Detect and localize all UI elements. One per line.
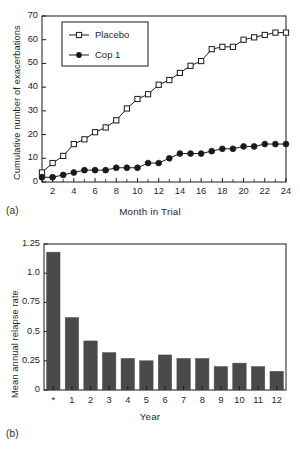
panel-a-datapoint — [145, 160, 151, 166]
panel-a-datapoint — [283, 141, 289, 147]
panel-a-datapoint — [61, 153, 66, 158]
panel-b-bar-chart: (b) Mean annual relapse rate Year 00.250… — [0, 230, 300, 459]
panel-a-xtick-12: 12 — [149, 186, 169, 196]
panel-a-xtick-20: 20 — [234, 186, 254, 196]
panel-a-datapoint — [135, 96, 140, 101]
panel-a-datapoint — [220, 44, 225, 49]
panel-b-bar — [177, 358, 190, 390]
panel-a-xtick-22: 22 — [255, 186, 275, 196]
panel-a-datapoint — [114, 118, 119, 123]
panel-b-ytick-0.75: 0.75 — [4, 296, 40, 306]
panel-b-bar — [233, 363, 246, 390]
panel-a-ytick-20: 20 — [4, 129, 38, 139]
panel-a-datapoint — [82, 137, 87, 142]
panel-a-datapoint — [92, 130, 97, 135]
panel-a-datapoint — [209, 148, 215, 154]
panel-a-xtick-8: 8 — [106, 186, 126, 196]
panel-b-ytick-0.25: 0.25 — [4, 355, 40, 365]
panel-a-datapoint — [166, 155, 172, 161]
panel-b-ytick-0.5: 0.5 — [4, 326, 40, 336]
panel-a-datapoint — [39, 174, 45, 180]
panel-a-legend-label: Cop 1 — [95, 49, 120, 60]
panel-a-xtick-24: 24 — [276, 186, 296, 196]
panel-a-legend: PlaceboCop 1 — [62, 22, 148, 66]
panel-b-bar — [84, 341, 97, 390]
figure: (a) Cumulative number of exacerbations M… — [0, 0, 300, 459]
panel-a-datapoint — [103, 125, 108, 130]
panel-b-ytick-1.0: 1.0 — [4, 267, 40, 277]
panel-a-datapoint — [71, 141, 76, 146]
panel-a-xtick-4: 4 — [64, 186, 84, 196]
panel-a-datapoint — [60, 172, 66, 178]
panel-a-datapoint — [199, 58, 204, 63]
panel-b-bar — [196, 358, 209, 390]
panel-a-ytick-60: 60 — [4, 34, 38, 44]
panel-a-datapoint — [124, 106, 129, 111]
panel-a-ytick-30: 30 — [4, 105, 38, 115]
panel-a-datapoint — [251, 144, 257, 150]
panel-a-datapoint — [92, 167, 98, 173]
panel-a-datapoint — [167, 77, 172, 82]
panel-b-bar — [65, 318, 78, 390]
panel-a-xtick-2: 2 — [43, 186, 63, 196]
panel-b-bar — [140, 361, 153, 390]
panel-a-datapoint — [103, 167, 109, 173]
panel-b-ytick-0: 0 — [4, 384, 40, 394]
panel-a-datapoint — [252, 35, 257, 40]
panel-a-datapoint — [135, 165, 141, 171]
panel-b-bar — [121, 358, 134, 390]
panel-a-xtick-16: 16 — [191, 186, 211, 196]
panel-a-ytick-70: 70 — [4, 10, 38, 20]
panel-a-datapoint — [272, 141, 278, 147]
panel-a-ytick-40: 40 — [4, 81, 38, 91]
panel-b-bar — [47, 252, 60, 390]
panel-a-datapoint — [241, 144, 247, 150]
panel-a-datapoint — [230, 44, 235, 49]
panel-a-xtick-6: 6 — [85, 186, 105, 196]
panel-a-datapoint — [188, 63, 193, 68]
panel-a-datapoint — [177, 151, 183, 157]
panel-a-datapoint — [262, 141, 268, 147]
panel-a-datapoint — [283, 30, 288, 35]
panel-a-line-chart: (a) Cumulative number of exacerbations M… — [0, 0, 300, 230]
panel-a-datapoint — [230, 146, 236, 152]
panel-a-datapoint — [82, 167, 88, 173]
panel-b-plot-area — [0, 230, 300, 459]
panel-a-datapoint — [145, 92, 150, 97]
panel-a-datapoint — [219, 146, 225, 152]
panel-a-xtick-10: 10 — [127, 186, 147, 196]
panel-a-datapoint — [71, 170, 77, 176]
panel-a-datapoint — [273, 30, 278, 35]
panel-a-datapoint — [177, 70, 182, 75]
panel-a-xtick-14: 14 — [170, 186, 190, 196]
panel-a-datapoint — [198, 151, 204, 157]
panel-a-datapoint — [156, 160, 162, 166]
panel-a-datapoint — [124, 165, 130, 171]
panel-a-ytick-50: 50 — [4, 57, 38, 67]
panel-a-datapoint — [50, 174, 56, 180]
panel-a-datapoint — [262, 32, 267, 37]
panel-a-datapoint — [209, 47, 214, 52]
panel-a-xtick-18: 18 — [212, 186, 232, 196]
panel-a-legend-label: Placebo — [95, 29, 129, 40]
panel-b-bar — [158, 355, 171, 390]
panel-a-ytick-10: 10 — [4, 152, 38, 162]
panel-b-bar — [102, 353, 115, 390]
panel-b-xtick-12: 12 — [266, 395, 288, 405]
panel-a-datapoint — [241, 37, 246, 42]
panel-a-datapoint — [188, 151, 194, 157]
panel-a-datapoint — [113, 165, 119, 171]
panel-b-ytick-1.25: 1.25 — [4, 238, 40, 248]
panel-a-datapoint — [50, 160, 55, 165]
panel-a-datapoint — [156, 82, 161, 87]
panel-a-ytick-0: 0 — [4, 176, 38, 186]
